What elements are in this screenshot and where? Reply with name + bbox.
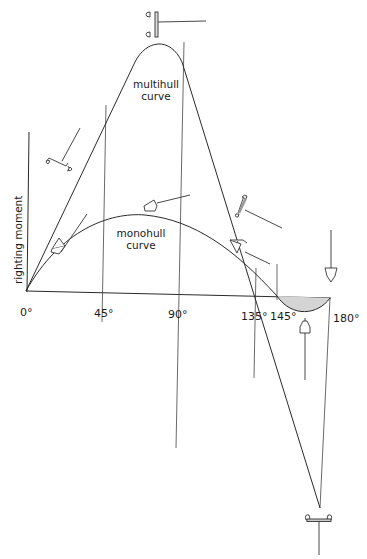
gridline-45 [102, 105, 106, 322]
x-tick-45: 45° [94, 308, 114, 319]
monohull-curve-label: monohull curve [113, 227, 169, 251]
righting-moment-diagram [0, 0, 367, 559]
monohull-heeled-small-icon [51, 214, 87, 254]
y-axis [27, 132, 29, 292]
x-tick-90: 90° [168, 309, 188, 320]
multihull-label-line2: curve [130, 90, 182, 102]
monohull-heeled-mid-icon [144, 195, 190, 211]
monohull-label-line1: monohull [113, 227, 169, 239]
y-axis-label: righting moment [13, 196, 24, 284]
multihull-upright-top-icon [146, 12, 206, 37]
x-tick-180: 180° [333, 313, 360, 324]
multihull-label-line1: multihull [130, 78, 182, 90]
multihull-heeled-icon [46, 128, 80, 171]
multihull-curve [26, 44, 320, 508]
monohull-upright-icon [325, 230, 337, 282]
gridline-135 [254, 268, 256, 378]
multihull-capsized-bottom-icon [305, 515, 331, 555]
x-tick-0: 0° [20, 307, 33, 318]
x-tick-135: 135° [241, 311, 268, 322]
monohull-inverted-icon [300, 318, 310, 380]
gridline-180 [320, 298, 330, 508]
multihull-curve-label: multihull curve [130, 78, 182, 102]
monohull-label-line2: curve [113, 239, 169, 251]
monohull-heeled-large-icon [230, 240, 270, 264]
multihull-knockdown-icon [235, 195, 282, 228]
x-tick-145: 145° [270, 311, 297, 322]
gridline-90 [176, 42, 184, 448]
